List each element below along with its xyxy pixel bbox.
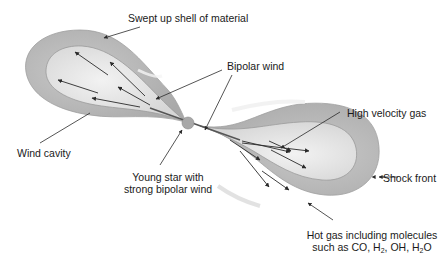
hot-gas-text-a: such as CO, H <box>312 241 380 253</box>
label-hot-gas-line1: Hot gas including molecules <box>302 229 442 241</box>
label-swept-up-shell: Swept up shell of material <box>128 12 248 24</box>
label-young-star-line2: strong bipolar wind <box>118 183 218 195</box>
label-high-velocity-gas: High velocity gas <box>347 107 426 119</box>
bipolar-outflow-illustration <box>0 0 446 265</box>
label-hot-gas: Hot gas including molecules such as CO, … <box>302 229 442 257</box>
hot-gas-text-c: O <box>423 241 431 253</box>
label-bipolar-wind: Bipolar wind <box>227 60 284 72</box>
young-star <box>182 117 194 129</box>
label-wind-cavity: Wind cavity <box>17 147 71 159</box>
diagram-canvas: Swept up shell of material Bipolar wind … <box>0 0 446 265</box>
label-hot-gas-line2: such as CO, H2, OH, H2O <box>302 241 442 257</box>
label-young-star: Young star with strong bipolar wind <box>118 171 218 195</box>
label-shock-front: Shock front <box>383 172 436 184</box>
hot-gas-text-b: , OH, H <box>385 241 420 253</box>
label-young-star-line1: Young star with <box>118 171 218 183</box>
bipolar-jet-axis <box>150 108 240 140</box>
